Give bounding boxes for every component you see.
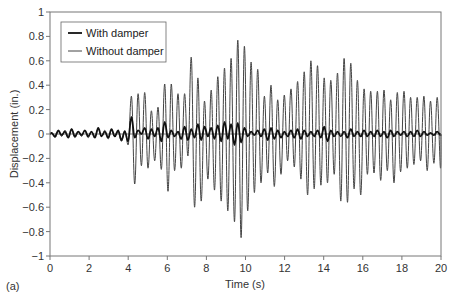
- x-tick-label: 10: [239, 262, 251, 274]
- y-tick-label: 0.8: [29, 30, 44, 42]
- x-tick-label: 0: [47, 262, 53, 274]
- x-tick-label: 20: [435, 262, 447, 274]
- x-tick-label: 12: [278, 262, 290, 274]
- y-tick-label: 0.4: [29, 79, 44, 91]
- x-tick-label: 8: [203, 262, 209, 274]
- legend-label-without-damper: Without damper: [86, 45, 164, 57]
- series-without-damper: [50, 40, 441, 238]
- y-tick-label: 0.6: [29, 55, 44, 67]
- x-tick-label: 16: [357, 262, 369, 274]
- panel-label: (a): [6, 280, 19, 292]
- y-tick-label: −1: [31, 250, 44, 262]
- x-tick-label: 4: [125, 262, 131, 274]
- y-tick-label: 0: [38, 128, 44, 140]
- y-axis-ticks: 10.80.60.40.20−0.2−0.4−0.6−0.8−1: [22, 6, 50, 262]
- x-tick-label: 2: [86, 262, 92, 274]
- y-tick-label: 0.2: [29, 104, 44, 116]
- y-tick-label: −0.8: [22, 226, 44, 238]
- displacement-time-chart: 10.80.60.40.20−0.2−0.4−0.6−0.8−1 0246810…: [0, 0, 455, 302]
- x-axis-title: Time (s): [225, 278, 265, 290]
- y-tick-label: 1: [38, 6, 44, 18]
- x-tick-label: 14: [318, 262, 330, 274]
- x-tick-label: 18: [396, 262, 408, 274]
- x-axis-ticks: 02468101214161820: [47, 256, 447, 274]
- x-tick-label: 6: [164, 262, 170, 274]
- plot-series: [50, 40, 441, 238]
- y-axis-title: Displacement (in.): [8, 90, 20, 179]
- y-tick-label: −0.4: [22, 177, 44, 189]
- legend-label-with-damper: With damper: [86, 27, 149, 39]
- y-tick-label: −0.2: [22, 152, 44, 164]
- legend: With damper Without damper: [61, 22, 166, 62]
- y-tick-label: −0.6: [22, 201, 44, 213]
